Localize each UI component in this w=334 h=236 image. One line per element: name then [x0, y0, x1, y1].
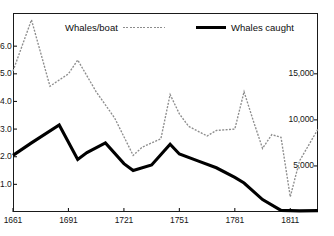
left-axis-tick-label: 3.0	[0, 124, 11, 134]
legend-item-whales-per-boat[interactable]: Whales/boat	[65, 22, 165, 33]
x-axis-tick-label: 1811	[270, 215, 310, 225]
series-line-whales-caught	[13, 125, 318, 211]
whaling-chart: 1.02.03.04.05.06.0 5,00010,00015,000 166…	[0, 0, 334, 236]
right-axis-ticks	[314, 74, 318, 166]
legend-item-whales-caught[interactable]: Whales caught	[196, 22, 294, 33]
right-axis-tick-label: 15,000	[289, 68, 314, 78]
right-axis-tick-label: 5,000	[293, 160, 314, 170]
left-axis-tick-label: 2.0	[0, 151, 11, 161]
x-axis-tick-label: 1661	[0, 215, 33, 225]
legend-swatch-solid-line-icon	[196, 26, 226, 29]
series-line-whales-per-boat	[13, 20, 318, 197]
chart-canvas	[0, 0, 334, 236]
right-axis-tick-label: 10,000	[289, 114, 314, 124]
left-axis-tick-label: 4.0	[0, 96, 11, 106]
legend-swatch-dotted-line-icon	[123, 26, 165, 29]
left-axis-tick-label: 6.0	[0, 41, 11, 51]
legend-label-whales-per-boat: Whales/boat	[65, 22, 118, 33]
x-axis-tick-label: 1721	[104, 215, 144, 225]
left-axis-tick-label: 1.0	[0, 179, 11, 189]
x-axis-tick-label: 1781	[215, 215, 255, 225]
legend-label-whales-caught: Whales caught	[231, 22, 294, 33]
bottom-axis-ticks	[13, 208, 290, 212]
x-axis-tick-label: 1751	[159, 215, 199, 225]
x-axis-tick-label: 1691	[48, 215, 88, 225]
left-axis-tick-label: 5.0	[0, 68, 11, 78]
